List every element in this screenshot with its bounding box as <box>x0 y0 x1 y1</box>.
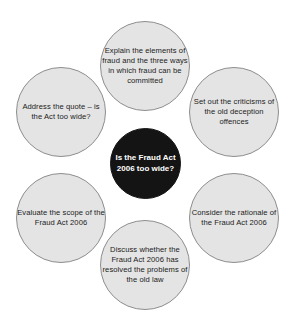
diagram-node-bottom-label: Discuss whether the Fraud Act 2006 has r… <box>101 245 189 286</box>
diagram-node-top-label: Explain the elements of fraud and the th… <box>101 46 189 87</box>
diagram-node-top-right: Set out the criticisms of the old decept… <box>189 67 279 157</box>
diagram-node-top: Explain the elements of fraud and the th… <box>100 21 190 111</box>
diagram-node-top-left: Address the quote – is the Act too wide? <box>16 67 106 157</box>
fraud-act-diagram: Explain the elements of fraud and the th… <box>0 0 286 329</box>
diagram-center-node-label: Is the Fraud Act 2006 too wide? <box>113 153 179 174</box>
diagram-node-top-left-label: Address the quote – is the Act too wide? <box>17 102 105 122</box>
diagram-node-bottom-left-label: Evaluate the scope of the Fraud Act 2006 <box>17 208 105 228</box>
diagram-node-bottom-right-label: Consider the rationale of the Fraud Act … <box>190 208 278 228</box>
diagram-node-bottom: Discuss whether the Fraud Act 2006 has r… <box>100 220 190 310</box>
diagram-node-bottom-right: Consider the rationale of the Fraud Act … <box>189 173 279 263</box>
diagram-node-bottom-left: Evaluate the scope of the Fraud Act 2006 <box>16 173 106 263</box>
diagram-center-node: Is the Fraud Act 2006 too wide? <box>110 128 181 199</box>
diagram-node-top-right-label: Set out the criticisms of the old decept… <box>190 97 278 128</box>
